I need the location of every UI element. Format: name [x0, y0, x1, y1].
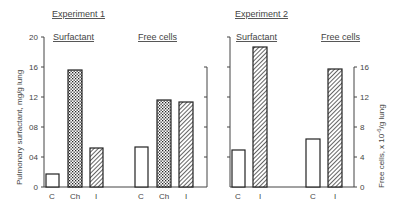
bar-exp1-fc-ch — [157, 100, 171, 187]
left-axis-title: Pulmonary surfactant, mg/g lung — [15, 70, 24, 185]
bar-exp1-fc-c — [135, 147, 148, 187]
right-tick-16: 16 — [360, 63, 369, 72]
cat-exp1-fc-c: C — [138, 192, 144, 201]
bar-exp1-surf-ch — [68, 70, 82, 187]
left-tick-0.4: 04 — [29, 153, 38, 162]
cat-exp2-surf-c: C — [235, 192, 241, 201]
cat-exp1-surf-c: C — [49, 192, 55, 201]
bar-exp2-fc-c — [306, 139, 320, 187]
right-tick-8: 8 — [360, 123, 365, 132]
right-axis-title-unit: g lung — [377, 104, 386, 126]
bar-exp1-fc-i — [179, 102, 193, 187]
cat-exp2-surf-i: I — [259, 192, 261, 201]
group-title-exp1-freecells: Free cells — [138, 32, 178, 42]
right-axis-title-main: Free cells, x 10 — [377, 133, 386, 188]
exp2-right-axis: 16 12 8 4 0 — [354, 63, 369, 192]
bar-exp2-fc-i — [328, 69, 342, 187]
cat-exp1-fc-ch: Ch — [159, 192, 169, 201]
left-tick-1.2: 12 — [29, 93, 38, 102]
group-title-exp1-surfactant: Surfactant — [53, 32, 95, 42]
left-tick-0.8: 08 — [29, 123, 38, 132]
left-tick-0: 0 — [34, 183, 39, 192]
right-tick-12: 12 — [360, 93, 369, 102]
exp1-right-axis — [204, 67, 207, 187]
bar-exp2-surf-i — [253, 47, 267, 187]
group-title-exp2-freecells: Free cells — [321, 32, 361, 42]
exp1-bars — [46, 70, 193, 187]
bar-exp1-surf-c — [46, 174, 59, 187]
left-tick-1.6: 16 — [29, 63, 38, 72]
cat-exp1-fc-i: I — [185, 192, 187, 201]
bar-exp1-surf-i — [90, 148, 103, 187]
cat-exp2-fc-c: C — [310, 192, 316, 201]
right-tick-0: 0 — [360, 183, 365, 192]
bar-exp2-surf-c — [232, 150, 245, 187]
right-axis-title: Free cells, x 10-6/g lung — [376, 104, 386, 188]
group-title-exp2-surfactant: Surfactant — [236, 32, 278, 42]
cat-exp1-surf-i: I — [95, 192, 97, 201]
cat-exp1-surf-ch: Ch — [70, 192, 80, 201]
panel-title-exp1: Experiment 1 — [52, 9, 105, 19]
panel-title-exp2: Experiment 2 — [235, 9, 288, 19]
cat-exp2-fc-i: I — [334, 192, 336, 201]
left-tick-2.0: 20 — [29, 33, 38, 42]
right-tick-4: 4 — [360, 153, 365, 162]
chart: Experiment 1 Experiment 2 Surfactant Fre… — [0, 0, 399, 206]
exp2-bars — [232, 47, 342, 187]
svg-text:Free cells, x 10-6/g lung: Free cells, x 10-6/g lung — [376, 104, 386, 188]
